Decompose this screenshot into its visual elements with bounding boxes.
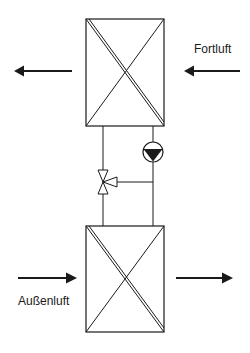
lower-heat-exchanger (86, 226, 164, 332)
three-way-valve-icon (98, 170, 117, 194)
upper-left-arrow-icon (14, 66, 72, 77)
exhaust-air-arrow-icon (184, 66, 240, 77)
upper-heat-exchanger (86, 19, 164, 126)
lower-right-arrow-icon (176, 273, 233, 284)
outside-air-arrow-icon (18, 273, 77, 284)
circulation-pump-icon (143, 142, 163, 162)
exhaust-air-label: Fortluft (194, 42, 231, 56)
heat-recovery-diagram: Fortluft Außenluft (0, 0, 250, 353)
outside-air-label: Außenluft (18, 294, 69, 308)
piping (103, 126, 153, 226)
